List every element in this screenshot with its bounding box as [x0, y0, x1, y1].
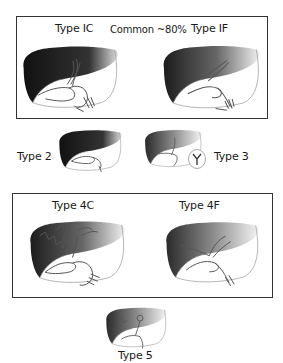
liver-diagram-type-2 — [57, 126, 123, 176]
liver-diagram-type-if — [160, 42, 262, 114]
liver-diagram-type-4f — [163, 217, 261, 291]
label-type-3: Type 3 — [214, 150, 249, 163]
label-type-if: Type IF — [191, 22, 228, 35]
label-type-4c: Type 4C — [52, 199, 94, 212]
label-common-80: Common ~80% — [110, 24, 187, 35]
liver-diagram-type-5 — [104, 304, 168, 352]
liver-diagram-type-ic — [20, 42, 120, 114]
label-type-ic: Type IC — [55, 22, 93, 35]
label-type-2: Type 2 — [17, 150, 52, 163]
label-type-5: Type 5 — [118, 349, 153, 362]
label-type-4f: Type 4F — [179, 199, 220, 212]
inset-circle-type-3 — [187, 148, 207, 170]
liver-diagram-type-4c — [27, 217, 127, 291]
